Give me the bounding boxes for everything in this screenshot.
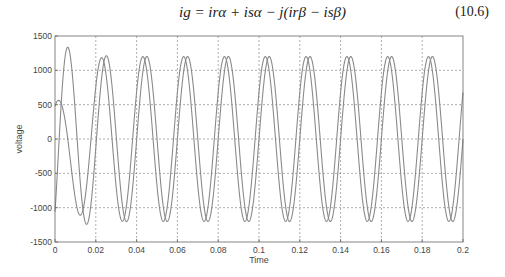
y-axis-label: voltage (14, 124, 24, 153)
x-tick-label: 0.06 (169, 245, 186, 255)
x-tick-label: 0 (53, 245, 58, 255)
y-tick-label: 1000 (33, 65, 52, 75)
x-tick-label: 0.08 (210, 245, 227, 255)
voltage-time-chart: 150010005000-500-1000-1500 00.020.040.06… (0, 0, 505, 277)
x-axis-label: Time (249, 255, 269, 265)
y-axis-ticks: 150010005000-500-1000-1500 (30, 31, 58, 247)
x-tick-label: 0.16 (373, 245, 390, 255)
x-tick-label: 0.14 (332, 245, 349, 255)
y-tick-label: -1000 (30, 203, 52, 213)
x-tick-label: 0.1 (253, 245, 265, 255)
x-axis-ticks: 00.020.040.060.080.10.120.140.160.180.2 (53, 239, 470, 255)
y-tick-label: -500 (35, 168, 52, 178)
x-tick-label: 0.04 (128, 245, 145, 255)
x-tick-label: 0.2 (457, 245, 469, 255)
x-tick-label: 0.12 (292, 245, 309, 255)
x-tick-label: 0.02 (88, 245, 105, 255)
y-tick-label: 0 (47, 134, 52, 144)
x-tick-label: 0.18 (414, 245, 431, 255)
y-tick-label: 500 (38, 100, 52, 110)
y-tick-label: 1500 (33, 31, 52, 41)
y-tick-label: -1500 (30, 237, 52, 247)
